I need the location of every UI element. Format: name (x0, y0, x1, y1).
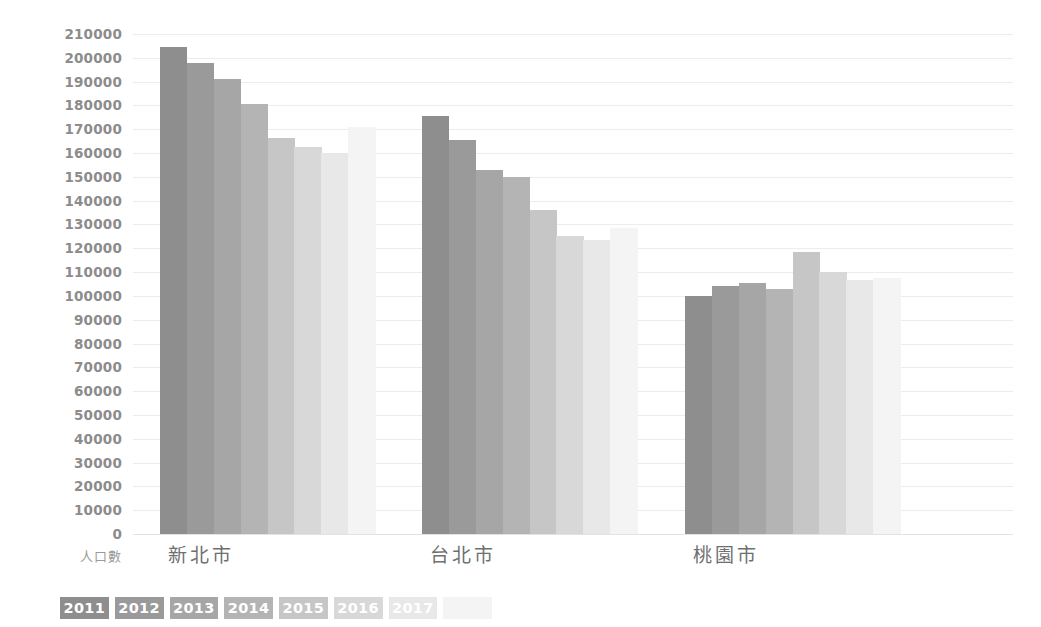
y-axis-tick-label: 50000 (0, 407, 122, 423)
gridline (133, 534, 1013, 535)
bar-chart: 2100002000001900001800001700001600001500… (0, 0, 1041, 627)
bar (766, 289, 793, 534)
bar (321, 153, 348, 534)
y-axis-tick-label: 80000 (0, 336, 122, 352)
bar (793, 252, 820, 534)
bar (160, 47, 187, 534)
y-axis-tick-label: 60000 (0, 383, 122, 399)
bar (187, 63, 214, 534)
y-axis: 2100002000001900001800001700001600001500… (0, 34, 122, 534)
y-axis-tick-label: 0 (0, 526, 122, 542)
legend-item[interactable] (443, 597, 492, 619)
bar (712, 286, 739, 534)
bar (449, 140, 476, 534)
y-axis-title: 人口數 (0, 546, 122, 565)
chart-legend: 2011201220132014201520162017 (60, 597, 492, 619)
y-axis-tick-label: 70000 (0, 359, 122, 375)
legend-item-label: 2017 (392, 600, 434, 616)
legend-item-label: 2014 (228, 600, 270, 616)
bar-group-2 (422, 34, 637, 534)
y-axis-tick-label: 120000 (0, 240, 122, 256)
y-axis-tick-label: 90000 (0, 312, 122, 328)
bar (241, 104, 268, 534)
bar-group-3 (685, 34, 900, 534)
legend-item[interactable]: 2015 (279, 597, 328, 619)
y-axis-tick-label: 20000 (0, 478, 122, 494)
y-axis-tick-label: 30000 (0, 455, 122, 471)
bar (846, 280, 873, 534)
y-axis-tick-label: 180000 (0, 97, 122, 113)
legend-item-label: 2016 (337, 600, 379, 616)
bar (685, 296, 712, 534)
legend-item-label: 2011 (64, 600, 106, 616)
y-axis-tick-label: 210000 (0, 26, 122, 42)
y-axis-tick-label: 200000 (0, 50, 122, 66)
bar (268, 138, 295, 534)
category-label: 台北市 (430, 540, 496, 567)
bar (819, 272, 846, 534)
bar (739, 283, 766, 534)
plot-area (133, 34, 1013, 534)
legend-item-label: 2012 (118, 600, 160, 616)
y-axis-tick-label: 160000 (0, 145, 122, 161)
bar (214, 79, 241, 534)
y-axis-tick-label: 190000 (0, 74, 122, 90)
bar (610, 228, 637, 534)
bar (503, 177, 530, 534)
legend-item-label: 2015 (283, 600, 325, 616)
category-label: 新北市 (168, 540, 234, 567)
y-axis-tick-label: 130000 (0, 216, 122, 232)
y-axis-tick-label: 150000 (0, 169, 122, 185)
legend-item[interactable]: 2016 (334, 597, 383, 619)
bar (873, 278, 900, 534)
y-axis-tick-label: 110000 (0, 264, 122, 280)
bar (294, 147, 321, 534)
bar-group-1 (160, 34, 375, 534)
bar (348, 127, 375, 534)
y-axis-tick-label: 100000 (0, 288, 122, 304)
y-axis-tick-label: 10000 (0, 502, 122, 518)
bar (422, 116, 449, 534)
legend-item[interactable]: 2014 (224, 597, 273, 619)
bar (556, 236, 583, 534)
y-axis-tick-label: 40000 (0, 431, 122, 447)
legend-item[interactable]: 2013 (170, 597, 219, 619)
bar (476, 170, 503, 534)
legend-item[interactable]: 2012 (115, 597, 164, 619)
bar (530, 210, 557, 534)
legend-item-label: 2013 (173, 600, 215, 616)
legend-item[interactable]: 2017 (389, 597, 438, 619)
y-axis-tick-label: 170000 (0, 121, 122, 137)
category-label: 桃園市 (693, 540, 759, 567)
legend-item[interactable]: 2011 (60, 597, 109, 619)
bar (583, 240, 610, 534)
y-axis-tick-label: 140000 (0, 193, 122, 209)
